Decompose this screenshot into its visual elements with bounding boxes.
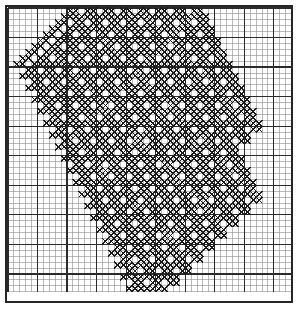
pattern-chart-page (0, 0, 300, 309)
chart-frame (5, 5, 293, 303)
chart-grid-area[interactable] (7, 7, 291, 301)
cross-stitch-pattern-svg (7, 7, 291, 301)
